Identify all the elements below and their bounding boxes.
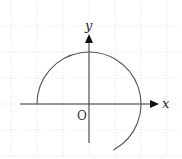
x-axis-arrowhead-icon — [150, 100, 159, 108]
y-axis-arrowhead-icon — [85, 34, 93, 43]
y-axis-label: y — [84, 18, 93, 33]
x-axis-label: x — [162, 96, 170, 111]
origin-label: O — [77, 109, 87, 123]
coordinate-diagram: x y O — [0, 0, 182, 159]
